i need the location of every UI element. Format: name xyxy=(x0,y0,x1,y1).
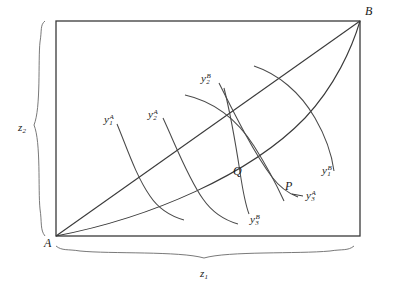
indifference-curve-y1A xyxy=(117,124,184,220)
curve-label-y3B-sup: B xyxy=(256,213,260,221)
curve-label-y3B: y3B xyxy=(250,210,260,227)
curve-label-y3A: y3A xyxy=(306,186,316,203)
indifference-curve-y2B xyxy=(185,95,284,201)
axis-label-z2: z2 xyxy=(18,118,26,135)
point-label-P: P xyxy=(285,180,292,192)
axis-label-z1: z1 xyxy=(200,264,208,281)
curve-label-y2B: y2B xyxy=(201,69,211,86)
axis-label-z2-base: z xyxy=(18,121,22,133)
indifference-curve-y1B xyxy=(254,66,334,171)
brace-vertical-z2 xyxy=(34,21,45,236)
axis-label-z1-base: z xyxy=(200,267,204,279)
axis-label-z1-sub: 1 xyxy=(205,273,209,281)
diagram-canvas xyxy=(0,0,393,288)
curve-label-y1A-sup: A xyxy=(110,113,114,121)
curve-label-y2B-sup: B xyxy=(207,72,211,80)
point-label-Q: Q xyxy=(233,165,242,177)
origin-label-A: A xyxy=(44,237,51,249)
indifference-curve-y3B xyxy=(224,88,249,214)
edgeworth-box-figure: A B Q P z1 z2 y1A y2A y3A y1B y2B y3B xyxy=(0,0,393,288)
brace-horizontal-z1 xyxy=(56,246,354,258)
curve-label-y1B: y1B xyxy=(322,161,332,178)
curve-label-y3A-sup: A xyxy=(312,189,316,197)
curve-label-y1A: y1A xyxy=(104,110,114,127)
diagonal-ray xyxy=(56,21,360,236)
curve-label-y2A: y2A xyxy=(148,105,158,122)
curve-label-y1B-sup: B xyxy=(328,164,332,172)
curve-label-y2A-sup: A xyxy=(154,108,158,116)
axis-label-z2-sub: 2 xyxy=(23,127,27,135)
origin-label-B: B xyxy=(365,5,372,17)
